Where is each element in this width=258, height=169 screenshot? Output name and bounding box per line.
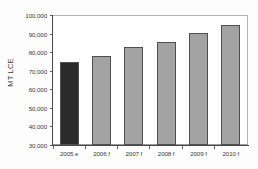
x-tick-slot [215,146,247,149]
y-axis-title-text: MT LCE [6,58,15,87]
y-tick-label: 30,000 [29,142,47,149]
x-axis-tick-marks [53,146,247,149]
bar[interactable] [60,62,79,145]
x-tick-slot [85,146,117,149]
y-tick-label: 60,000 [29,86,47,93]
x-tick-slot [118,146,150,149]
y-tick-label: 70,000 [29,67,47,74]
bar-slot [150,16,182,145]
x-axis-tick-labels: 2005 e2006 f2007 f2008 f2009 f2010 f [53,150,247,164]
x-tick-mark [53,146,54,149]
y-tick-label: 100,000 [25,12,47,19]
bar-slot [215,16,247,145]
y-tick-label: 90,000 [29,30,47,37]
bar[interactable] [124,47,143,145]
bar-chart: MT LCE 30,00040,00050,00060,00070,00080,… [0,0,258,169]
bar-slot [53,16,85,145]
x-tick-slot [53,146,85,149]
x-tick-label: 2007 f [118,150,150,164]
x-tick-mark [85,146,86,149]
x-tick-label: 2006 f [85,150,117,164]
x-tick-mark [182,146,183,149]
x-tick-slot [182,146,214,149]
bar[interactable] [92,56,111,145]
bar-slot [118,16,150,145]
x-tick-label: 2010 f [215,150,247,164]
x-tick-label: 2005 e [53,150,85,164]
x-tick-slot [150,146,182,149]
bar[interactable] [157,42,176,145]
x-tick-label: 2008 f [150,150,182,164]
bar-slot [85,16,117,145]
bar[interactable] [189,33,208,145]
x-tick-mark [149,146,150,149]
bar[interactable] [221,25,240,145]
x-tick-mark [117,146,118,149]
y-axis-tick-labels: 30,00040,00050,00060,00070,00080,00090,0… [16,15,50,145]
y-tick-label: 80,000 [29,49,47,56]
bar-slot [182,16,214,145]
y-tick-label: 40,000 [29,123,47,130]
y-tick-label: 50,000 [29,104,47,111]
x-tick-label: 2009 f [182,150,214,164]
bars-container [53,16,247,145]
x-tick-mark [214,146,215,149]
